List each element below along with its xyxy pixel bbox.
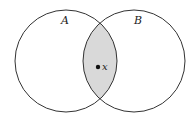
set-b-label: B	[133, 14, 142, 27]
set-a-label: A	[60, 14, 69, 27]
venn-svg: A B x	[0, 0, 195, 128]
venn-diagram: A B x	[0, 0, 195, 128]
element-label: x	[102, 61, 108, 72]
element-point	[96, 65, 100, 69]
